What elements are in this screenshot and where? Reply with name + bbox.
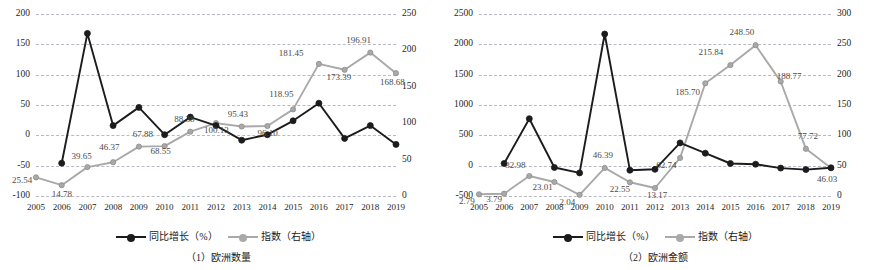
data-point bbox=[602, 31, 608, 37]
data-point bbox=[551, 165, 557, 171]
legend-2: 同比增长（%） 指数（右轴） bbox=[437, 232, 874, 242]
legend-growth-marker-icon bbox=[116, 233, 146, 242]
data-point bbox=[778, 165, 784, 171]
data-label: 22.55 bbox=[610, 185, 630, 194]
data-point bbox=[84, 30, 90, 36]
data-point bbox=[316, 100, 322, 106]
panel-caption-2: （2）欧洲金额 bbox=[437, 252, 874, 263]
data-label: 100.13 bbox=[204, 126, 229, 135]
data-label: 95.43 bbox=[228, 110, 248, 119]
data-label: 3.79 bbox=[486, 195, 502, 204]
chart-panel-1: -100-50050100150200050100150200250200520… bbox=[0, 0, 437, 270]
data-label: 168.68 bbox=[380, 78, 405, 87]
data-point bbox=[59, 160, 65, 166]
data-label: 196.91 bbox=[346, 36, 371, 45]
data-label: 2.04 bbox=[560, 198, 576, 207]
data-label: 181.45 bbox=[279, 49, 304, 58]
legend-growth-label: 同比增长（%） bbox=[586, 232, 654, 242]
data-label: 23.01 bbox=[532, 183, 552, 192]
data-label: 14.78 bbox=[52, 190, 72, 199]
legend-item-index: 指数（右轴） bbox=[665, 232, 758, 242]
data-point bbox=[136, 104, 142, 110]
data-point bbox=[577, 192, 582, 197]
data-point bbox=[239, 137, 245, 143]
data-point bbox=[828, 165, 834, 171]
data-label: 215.84 bbox=[698, 48, 723, 57]
figure-row: -100-50050100150200050100150200250200520… bbox=[0, 0, 875, 270]
data-point bbox=[728, 63, 733, 68]
data-point bbox=[136, 144, 141, 149]
legend-index-label: 指数（右轴） bbox=[261, 232, 321, 242]
data-point bbox=[677, 140, 683, 146]
data-label: 46.03 bbox=[817, 175, 837, 184]
legend-index-label: 指数（右轴） bbox=[698, 232, 758, 242]
data-point bbox=[33, 175, 38, 180]
data-point bbox=[627, 167, 633, 173]
data-point bbox=[367, 123, 373, 129]
data-label: 46.37 bbox=[99, 143, 119, 152]
data-point bbox=[59, 183, 64, 188]
series-line bbox=[504, 34, 831, 173]
data-point bbox=[188, 129, 193, 134]
legend-item-growth: 同比增长（%） bbox=[553, 232, 654, 242]
data-point bbox=[342, 135, 348, 141]
data-point bbox=[753, 161, 759, 167]
data-label: 67.88 bbox=[133, 130, 153, 139]
data-point bbox=[316, 61, 321, 66]
data-point bbox=[577, 170, 583, 176]
data-point bbox=[727, 161, 733, 167]
data-label: 46.39 bbox=[593, 151, 613, 160]
legend-index-marker-icon bbox=[228, 233, 258, 242]
data-point bbox=[111, 160, 116, 165]
data-point bbox=[393, 141, 399, 147]
data-point bbox=[368, 50, 373, 55]
data-point bbox=[162, 132, 168, 138]
data-point bbox=[502, 191, 507, 196]
data-label: 173.39 bbox=[327, 73, 352, 82]
data-label: 248.50 bbox=[730, 28, 755, 37]
data-label: 2.79 bbox=[459, 197, 475, 206]
data-label: 32.98 bbox=[505, 161, 525, 170]
data-label: 62.74 bbox=[656, 161, 676, 170]
data-point bbox=[290, 118, 296, 124]
data-point bbox=[110, 123, 116, 129]
data-point bbox=[527, 173, 532, 178]
data-point bbox=[239, 124, 244, 129]
data-label: 88.38 bbox=[174, 115, 194, 124]
chart-panel-2: -500050010001500200025000501001502002503… bbox=[437, 0, 874, 270]
data-point bbox=[678, 155, 683, 160]
data-point bbox=[476, 192, 481, 197]
legend-growth-marker-icon bbox=[553, 233, 583, 242]
data-label: 77.72 bbox=[798, 132, 818, 141]
data-point bbox=[291, 107, 296, 112]
plot-area-2: -500050010001500200025000501001502002503… bbox=[437, 0, 874, 270]
legend-index-marker-icon bbox=[665, 233, 695, 242]
data-point bbox=[803, 146, 808, 151]
plot-area-1: -100-50050100150200050100150200250200520… bbox=[0, 0, 437, 270]
data-point bbox=[703, 81, 708, 86]
data-point bbox=[702, 150, 708, 156]
data-label: 39.65 bbox=[71, 152, 91, 161]
data-point bbox=[393, 71, 398, 76]
data-label: 188.77 bbox=[777, 72, 802, 81]
panel-caption-1: （1）欧洲数量 bbox=[0, 252, 437, 263]
data-point bbox=[602, 165, 607, 170]
data-label: 25.54 bbox=[12, 176, 32, 185]
data-label: 13.17 bbox=[647, 191, 667, 200]
legend-growth-label: 同比增长（%） bbox=[149, 232, 217, 242]
data-label: 118.95 bbox=[269, 90, 293, 99]
data-point bbox=[753, 43, 758, 48]
data-label: 68.55 bbox=[151, 147, 171, 156]
data-label: 185.70 bbox=[675, 88, 700, 97]
legend-1: 同比增长（%） 指数（右轴） bbox=[0, 232, 437, 242]
data-point bbox=[803, 167, 809, 173]
data-point bbox=[85, 165, 90, 170]
legend-item-index: 指数（右轴） bbox=[228, 232, 321, 242]
legend-item-growth: 同比增长（%） bbox=[116, 232, 217, 242]
data-label: 96.10 bbox=[257, 129, 277, 138]
data-point bbox=[526, 116, 532, 122]
